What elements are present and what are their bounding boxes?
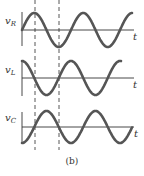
label-vL: vL (5, 64, 16, 77)
plot-vC: vC t (5, 111, 139, 144)
plot-vL: vL t (5, 60, 138, 96)
label-vC: vC (5, 112, 17, 125)
plot-vR: vR t (5, 12, 138, 47)
figure-caption: (b) (66, 156, 79, 166)
phasor-waveform-diagram: vR t vL t vC t (b) (0, 0, 144, 176)
t-label-vC: t (134, 128, 139, 139)
label-vR: vR (5, 15, 17, 28)
t-label-vR: t (133, 31, 138, 42)
t-label-vL: t (133, 79, 138, 90)
